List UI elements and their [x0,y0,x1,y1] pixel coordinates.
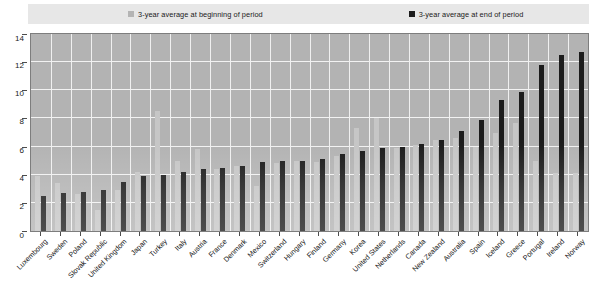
y-axis-tick-mark [22,231,27,232]
x-axis-tick-mark [40,232,41,236]
bar-begin [115,190,120,231]
bar-begin [75,194,80,231]
x-axis-tick-label-text: Austria [186,237,208,259]
x-axis-tick-label-text: Ireland [545,237,567,259]
bar-end [280,161,285,231]
bar-begin [254,186,259,231]
bar-begin [533,161,538,231]
bar-end [260,162,265,231]
bar-begin [553,173,558,231]
x-axis-tick-mark [458,232,459,236]
chart-figure: 3-year average at beginning of period 3-… [0,0,597,287]
y-axis-tick-mark [22,203,27,204]
y-axis-tick-mark [22,62,27,63]
bar-group [210,34,230,231]
bar-group [290,34,310,231]
x-axis-tick-label-text: Iceland [484,237,507,260]
bar-group [508,34,528,231]
x-axis-tick-mark [318,232,319,236]
bar-begin [175,161,180,231]
x-axis: LuxembourgSwedenPolandSlovak RepublicUni… [30,232,589,287]
bar-group [230,34,250,231]
bar-group [369,34,389,231]
bar-group [469,34,489,231]
bar-group [310,34,330,231]
bar-begin [453,138,458,231]
bar-end [360,151,365,231]
x-axis-tick-mark [418,232,419,236]
bar-group [429,34,449,231]
bar-begin [35,176,40,231]
chart-legend: 3-year average at beginning of period 3-… [28,4,589,24]
bar-group [150,34,170,231]
bar-group [111,34,131,231]
y-axis-tick-mark [22,147,27,148]
bar-begin [433,140,438,231]
x-axis-tick-label-text: Sweden [44,237,69,262]
x-axis-tick-mark [358,232,359,236]
x-axis-tick-mark [338,232,339,236]
x-axis-tick-mark [259,232,260,236]
legend-label-begin: 3-year average at beginning of period [138,10,263,19]
x-axis-tick-mark [438,232,439,236]
bar-group [130,34,150,231]
bar-group [409,34,429,231]
legend-swatch-end-icon [409,11,415,17]
bar-begin [334,156,339,231]
bar-end [240,166,245,231]
x-axis-tick-mark [537,232,538,236]
bar-begin [214,169,219,231]
x-axis-tick-mark [179,232,180,236]
legend-label-end: 3-year average at end of period [419,10,524,19]
bar-end [61,193,66,231]
bar-begin [155,111,160,231]
bar-end [400,147,405,231]
bar-begin [234,166,239,231]
bar-end [220,168,225,231]
bar-group [250,34,270,231]
y-axis-tick-mark [22,34,27,35]
bar-end [340,154,345,231]
bar-begin [413,145,418,231]
bar-end [121,182,126,231]
bar-series-container [31,34,588,231]
bar-group [349,34,369,231]
bar-begin [314,162,319,231]
bar-group [170,34,190,231]
bar-group [449,34,469,231]
bar-end [539,65,544,231]
bar-begin [274,163,279,231]
legend-item-begin: 3-year average at beginning of period [128,10,263,19]
bar-begin [394,148,399,231]
x-axis-tick-mark [120,232,121,236]
bar-end [181,172,186,231]
x-axis-tick-mark [497,232,498,236]
legend-swatch-begin-icon [128,11,134,17]
bar-group [31,34,51,231]
bar-end [459,131,464,231]
bar-group [270,34,290,231]
x-axis-tick-mark [199,232,200,236]
bar-end [439,140,444,231]
bar-end [320,159,325,231]
bar-begin [195,149,200,231]
bar-end [559,55,564,231]
bar-group [389,34,409,231]
x-axis-tick-mark [577,232,578,236]
bar-end [141,176,146,231]
y-axis-tick-mark [22,118,27,119]
bar-group [190,34,210,231]
bar-begin [55,183,60,231]
x-axis-tick-mark [478,232,479,236]
x-axis-tick-mark [139,232,140,236]
bar-end [380,148,385,231]
bar-end [300,161,305,231]
x-axis-tick-mark [378,232,379,236]
bar-group [548,34,568,231]
bar-end [101,190,106,231]
x-axis-tick-label-text: Italy [173,237,189,253]
bar-begin [374,118,379,231]
y-axis-tick-mark [22,90,27,91]
bar-begin [135,172,140,231]
bar-end [161,175,166,231]
